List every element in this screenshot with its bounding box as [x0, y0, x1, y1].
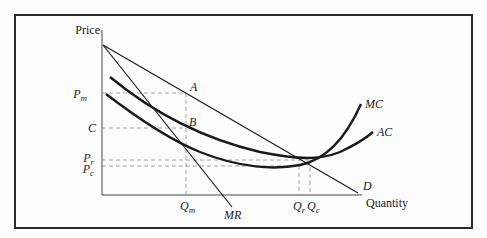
- x-axis-label: Quantity: [366, 196, 408, 210]
- c-label: C: [88, 121, 97, 135]
- ac-label: AC: [376, 125, 393, 139]
- pm-label: Pm: [72, 87, 87, 103]
- monopoly-cost-diagram: Price Quantity Pm C Pr Pc Qm Qr Qc A B M…: [0, 0, 487, 238]
- qr-label: Qr: [293, 199, 306, 215]
- qc-label: Qc: [307, 199, 320, 215]
- point-b-label: B: [189, 115, 197, 129]
- mr-label: MR: [223, 208, 242, 222]
- d-label: D: [362, 179, 372, 193]
- point-a-label: A: [189, 80, 198, 94]
- qm-label: Qm: [180, 199, 196, 215]
- y-axis-label: Price: [75, 23, 100, 37]
- marginal-cost-curve: [106, 94, 361, 167]
- marginal-revenue-curve: [103, 45, 232, 207]
- mc-label: MC: [364, 97, 384, 111]
